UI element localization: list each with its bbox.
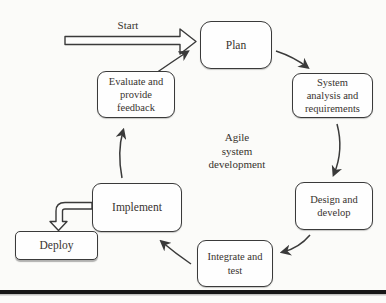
arrow-system-to-design-icon [334, 124, 340, 174]
arrow-evaluate-to-plan-icon [156, 52, 187, 73]
node-integrate-test: Integrate and test [197, 240, 273, 287]
arrow-integrate-to-implement-icon [162, 242, 191, 264]
node-implement: Implement [92, 183, 182, 232]
node-design-develop: Design and develop [295, 182, 373, 230]
node-deploy: Deploy [15, 231, 98, 260]
node-evaluate-feedback-label: Evaluate and provide feedback [109, 75, 164, 114]
node-evaluate-feedback: Evaluate and provide feedback [97, 71, 175, 118]
node-integrate-test-label: Integrate and test [207, 250, 262, 276]
node-deploy-label: Deploy [40, 238, 74, 252]
arrow-design-to-integrate-icon [283, 235, 310, 252]
node-plan: Plan [200, 21, 272, 69]
arrow-implement-to-evaluate-icon [120, 131, 123, 178]
node-implement-label: Implement [112, 200, 162, 214]
node-plan-label: Plan [226, 38, 246, 52]
arrow-plan-to-system-icon [276, 51, 307, 67]
start-label: Start [98, 19, 158, 31]
implement-to-deploy-arrow-icon [50, 203, 92, 231]
diagram-title: Agile system development [192, 131, 282, 172]
node-system-analysis: System analysis and requirements [292, 73, 373, 118]
agile-development-diagram: Start Plan System analysis and requireme… [0, 0, 386, 303]
start-arrow-icon [65, 29, 196, 54]
node-system-analysis-label: System analysis and requirements [305, 76, 360, 115]
page-rule [0, 290, 386, 294]
node-design-develop-label: Design and develop [310, 193, 358, 219]
